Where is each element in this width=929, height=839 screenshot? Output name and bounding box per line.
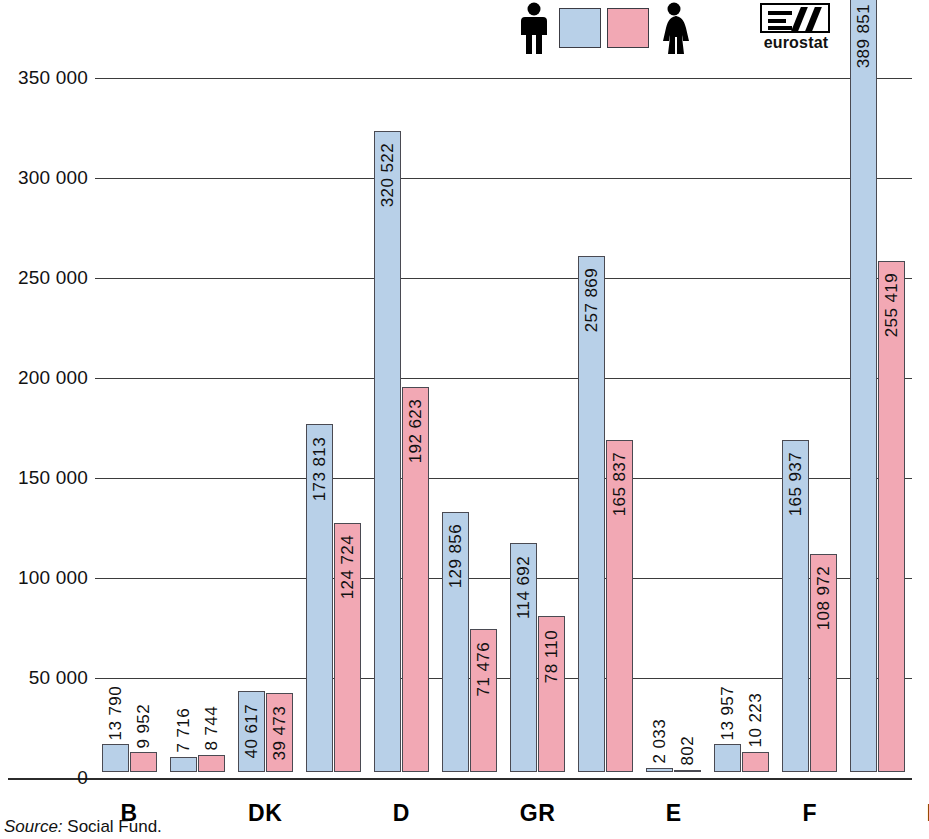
y-axis-tick-label: 350 000 — [0, 67, 88, 89]
bar-female — [130, 752, 157, 772]
y-axis-tick-label: 0 — [0, 767, 88, 789]
bar-group: 320 522192 623E — [367, 0, 435, 772]
bar-group: 389 851255 419UK — [844, 0, 912, 772]
source-label: Source: — [4, 817, 63, 836]
bar-group: 7 7168 744DK — [163, 0, 231, 772]
bar-group: 257 869165 837I — [572, 0, 640, 772]
bar-male — [646, 768, 673, 772]
plot-area: 13 7909 952B7 7168 744DK40 61739 473D173… — [95, 0, 912, 772]
bar-male — [578, 256, 605, 772]
bar-value-label: 78 110 — [542, 630, 562, 683]
bar-female — [674, 770, 701, 772]
x-axis-category-label: IRL — [912, 800, 929, 827]
bar-value-label: 129 856 — [446, 524, 466, 588]
source-text: Social Fund. — [67, 817, 162, 836]
bar-female — [198, 755, 225, 772]
x-axis-category-label: E — [640, 800, 708, 827]
x-axis-category-label: GR — [504, 800, 572, 827]
bar-male — [714, 744, 741, 772]
bar-value-label: 165 837 — [610, 452, 630, 516]
y-axis-tick-label: 250 000 — [0, 267, 88, 289]
y-axis-tick-label: 200 000 — [0, 367, 88, 389]
bar-group: 173 813124 724GR — [299, 0, 367, 772]
bar-male — [170, 757, 197, 772]
bar-value-label: 320 522 — [378, 143, 398, 207]
bar-value-label: 2 033 — [650, 719, 670, 764]
axis-baseline — [8, 778, 912, 780]
bar-value-label: 7 716 — [174, 708, 194, 753]
bar-group: 40 61739 473D — [231, 0, 299, 772]
bar-value-label: 124 724 — [338, 535, 358, 599]
x-axis-category-label: F — [776, 800, 844, 827]
bar-female — [878, 261, 905, 772]
y-axis-tick-label: 300 000 — [0, 167, 88, 189]
bar-chart: eurostat 350 000300 000250 000200 000150… — [0, 0, 929, 839]
bar-group: 165 937108 972P — [776, 0, 844, 772]
bar-value-label: 13 790 — [106, 686, 126, 740]
x-axis-category-label: D — [367, 800, 435, 827]
bar-value-label: 10 223 — [746, 693, 766, 747]
y-axis-tick-label: 100 000 — [0, 567, 88, 589]
bar-female — [742, 752, 769, 772]
bar-male — [850, 0, 877, 772]
bar-value-label: 255 419 — [882, 273, 902, 337]
bar-value-label: 108 972 — [814, 566, 834, 630]
bar-value-label: 165 937 — [786, 452, 806, 516]
bar-group: 2 033802L — [640, 0, 708, 772]
bar-value-label: 192 623 — [406, 399, 426, 463]
bar-value-label: 13 957 — [718, 686, 738, 740]
bar-value-label: 389 851 — [854, 4, 874, 68]
bar-value-label: 114 692 — [514, 556, 534, 619]
y-axis-tick-label: 50 000 — [0, 667, 88, 689]
bar-group: 114 69278 110IRL — [504, 0, 572, 772]
bar-value-label: 40 617 — [242, 704, 262, 758]
bar-male — [102, 744, 129, 772]
x-axis-category-label: DK — [231, 800, 299, 827]
bar-value-label: 173 813 — [310, 437, 330, 501]
bar-value-label: 39 473 — [270, 706, 290, 760]
bar-value-label: 9 952 — [134, 704, 154, 749]
bar-value-label: 257 869 — [582, 268, 602, 332]
bar-value-label: 802 — [678, 736, 698, 766]
bar-group: 13 7909 952B — [95, 0, 163, 772]
bar-value-label: 71 476 — [474, 642, 494, 696]
source-note: Source: Social Fund. — [4, 817, 162, 837]
y-axis-tick-label: 150 000 — [0, 467, 88, 489]
bar-value-label: 8 744 — [202, 706, 222, 751]
bar-male — [374, 131, 401, 772]
bar-group: 129 85671 476F — [435, 0, 503, 772]
bar-group: 13 95710 223NL — [708, 0, 776, 772]
